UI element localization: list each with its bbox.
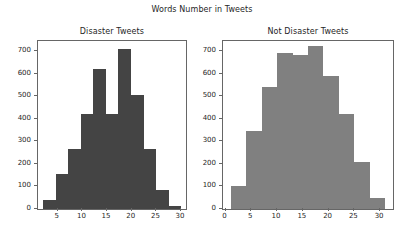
y-tick-mark <box>34 95 37 96</box>
y-tick-label: 500 <box>188 91 216 99</box>
x-tick-label: 30 <box>168 212 192 220</box>
x-tick-label: 30 <box>367 212 391 220</box>
x-tick-mark <box>250 208 251 211</box>
y-tick-mark <box>219 118 222 119</box>
y-tick-mark <box>219 208 222 209</box>
y-tick-label: 400 <box>3 114 31 122</box>
histogram-bar <box>339 114 354 209</box>
x-tick-label: 10 <box>264 212 288 220</box>
histogram-bar <box>370 198 385 209</box>
x-tick-mark <box>180 208 181 211</box>
histogram-bar <box>156 190 169 209</box>
x-tick-label: 25 <box>143 212 167 220</box>
histogram-bar <box>144 149 157 209</box>
figure-canvas: Words Number in Tweets Disaster Tweets N… <box>0 0 404 235</box>
x-tick-mark <box>353 208 354 211</box>
x-tick-mark <box>155 208 156 211</box>
y-tick-label: 600 <box>188 69 216 77</box>
x-tick-mark <box>131 208 132 211</box>
x-tick-label: 5 <box>238 212 262 220</box>
y-tick-mark <box>34 185 37 186</box>
y-tick-label: 300 <box>188 136 216 144</box>
x-tick-label: 20 <box>316 212 340 220</box>
histogram-bar <box>231 186 246 209</box>
y-tick-label: 200 <box>188 159 216 167</box>
y-tick-label: 200 <box>3 159 31 167</box>
y-tick-mark <box>34 140 37 141</box>
histogram-bar <box>68 149 81 209</box>
plot-area-not-disaster <box>223 41 393 209</box>
histogram-bar <box>323 76 338 209</box>
x-tick-mark <box>81 208 82 211</box>
x-tick-mark <box>106 208 107 211</box>
y-tick-label: 100 <box>188 181 216 189</box>
histogram-bar <box>354 162 369 209</box>
x-tick-label: 10 <box>69 212 93 220</box>
histogram-bar <box>308 46 323 209</box>
subplot-title-disaster: Disaster Tweets <box>37 27 187 36</box>
y-tick-label: 300 <box>3 136 31 144</box>
y-tick-mark <box>219 73 222 74</box>
histogram-bar <box>56 174 69 209</box>
histogram-bar <box>277 53 292 209</box>
y-tick-mark <box>219 163 222 164</box>
histogram-bar <box>81 114 94 209</box>
y-tick-mark <box>219 95 222 96</box>
y-tick-label: 100 <box>3 181 31 189</box>
figure-suptitle: Words Number in Tweets <box>0 5 404 14</box>
y-tick-label: 500 <box>3 91 31 99</box>
x-tick-label: 5 <box>45 212 69 220</box>
y-tick-mark <box>34 73 37 74</box>
x-tick-mark <box>379 208 380 211</box>
histogram-bar <box>131 95 144 209</box>
histogram-bar <box>118 49 131 209</box>
y-tick-mark <box>219 140 222 141</box>
histogram-bar <box>106 114 119 209</box>
plot-area-disaster <box>38 41 186 209</box>
histogram-bar <box>262 87 277 209</box>
axes-disaster-tweets <box>37 40 187 210</box>
x-tick-label: 15 <box>290 212 314 220</box>
y-tick-label: 700 <box>3 46 31 54</box>
x-tick-mark <box>302 208 303 211</box>
x-tick-label: 25 <box>341 212 365 220</box>
histogram-bar <box>93 69 106 209</box>
histogram-bar <box>43 200 56 209</box>
x-tick-label: 0 <box>213 212 237 220</box>
y-tick-mark <box>34 163 37 164</box>
x-tick-mark <box>225 208 226 211</box>
y-tick-mark <box>34 118 37 119</box>
y-tick-mark <box>219 185 222 186</box>
y-tick-label: 0 <box>3 204 31 212</box>
histogram-bar <box>293 55 308 209</box>
x-tick-mark <box>328 208 329 211</box>
x-tick-mark <box>57 208 58 211</box>
y-tick-label: 400 <box>188 114 216 122</box>
x-tick-mark <box>276 208 277 211</box>
y-tick-mark <box>34 50 37 51</box>
axes-not-disaster-tweets <box>222 40 394 210</box>
y-tick-mark <box>34 208 37 209</box>
x-tick-label: 15 <box>94 212 118 220</box>
y-tick-label: 700 <box>188 46 216 54</box>
y-tick-label: 0 <box>188 204 216 212</box>
histogram-bar <box>246 131 261 209</box>
x-tick-label: 20 <box>119 212 143 220</box>
y-tick-mark <box>219 50 222 51</box>
subplot-title-not-disaster: Not Disaster Tweets <box>222 27 394 36</box>
y-tick-label: 600 <box>3 69 31 77</box>
